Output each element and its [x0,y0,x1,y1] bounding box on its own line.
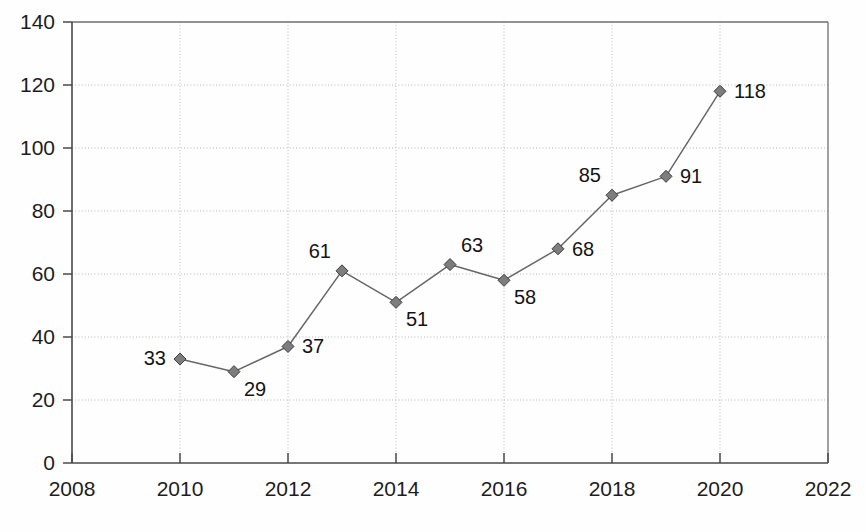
data-point-label: 61 [309,240,331,262]
x-axis-tick-label: 2018 [589,477,636,500]
data-point-label: 68 [572,238,594,260]
data-point-label: 51 [406,308,428,330]
x-axis-tick-label: 2010 [157,477,204,500]
data-point-label: 85 [579,164,601,186]
data-point-label: 91 [680,165,702,187]
y-axis-tick-label: 80 [32,199,55,222]
x-axis-tick-label: 2012 [265,477,312,500]
line-chart: 020406080100120140 200820102012201420162… [0,0,866,532]
y-axis-tick-label: 60 [32,262,55,285]
x-axis-tick-label: 2014 [373,477,420,500]
data-point-label: 33 [144,347,166,369]
y-axis-tick-label: 140 [20,10,55,33]
y-axis-tick-label: 40 [32,325,55,348]
data-point-label: 29 [244,378,266,400]
y-axis-tick-label: 100 [20,136,55,159]
x-axis-tick-label: 2022 [805,477,852,500]
x-axis-tick-label: 2008 [49,477,96,500]
data-point-label: 58 [514,286,536,308]
chart-canvas: 020406080100120140 200820102012201420162… [0,0,866,532]
y-axis-tick-label: 0 [43,451,55,474]
y-axis-tick-label: 120 [20,73,55,96]
x-axis-tick-label: 2020 [697,477,744,500]
y-axis-tick-label: 20 [32,388,55,411]
data-point-label: 63 [461,234,483,256]
x-axis-tick-label: 2016 [481,477,528,500]
data-point-label: 37 [302,335,324,357]
data-point-label: 118 [734,80,766,102]
